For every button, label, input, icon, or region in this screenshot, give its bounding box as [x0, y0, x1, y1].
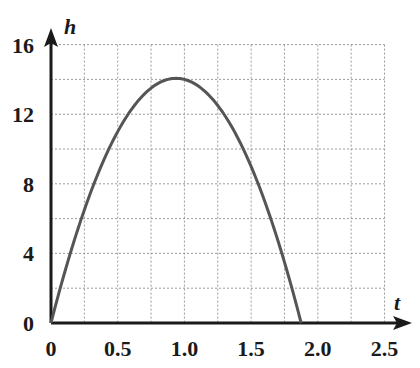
y-tick-label: 12: [12, 102, 34, 127]
y-tick-label: 16: [12, 33, 34, 58]
x-tick-label: 0.5: [104, 336, 132, 361]
x-tick-label: 1.5: [237, 336, 265, 361]
tick-labels: 00.51.01.52.02.50481216: [12, 33, 398, 361]
x-axis-label: t: [394, 290, 401, 315]
x-tick-label: 0: [46, 336, 57, 361]
height-time-chart: 00.51.01.52.02.50481216 h t: [0, 0, 420, 368]
height-curve: [51, 78, 301, 323]
grid: [51, 45, 385, 323]
x-tick-label: 2.5: [371, 336, 399, 361]
axes: [44, 28, 412, 330]
x-tick-label: 1.0: [171, 336, 199, 361]
y-tick-label: 8: [23, 172, 34, 197]
y-axis-label: h: [64, 14, 76, 39]
x-tick-label: 2.0: [304, 336, 332, 361]
y-tick-label: 0: [23, 311, 34, 336]
y-tick-label: 4: [23, 241, 34, 266]
